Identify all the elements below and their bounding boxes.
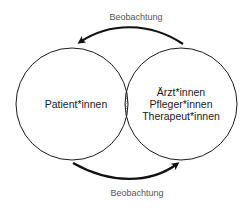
left-circle-label: Patient*innen bbox=[45, 98, 108, 110]
top-arrow bbox=[80, 27, 183, 44]
right-circle-line-2: Pfleger*innen bbox=[149, 98, 212, 110]
right-circle-line-1: Ärzt*innen bbox=[157, 86, 206, 98]
right-circle-line-3: Therapeut*innen bbox=[142, 110, 220, 122]
bottom-arrow bbox=[73, 163, 177, 179]
top-arrow-label: Beobachtung bbox=[109, 12, 162, 22]
venn-diagram: Beobachtung Beobachtung Patient*innen Är… bbox=[0, 0, 250, 208]
bottom-arrow-label: Beobachtung bbox=[110, 188, 163, 198]
